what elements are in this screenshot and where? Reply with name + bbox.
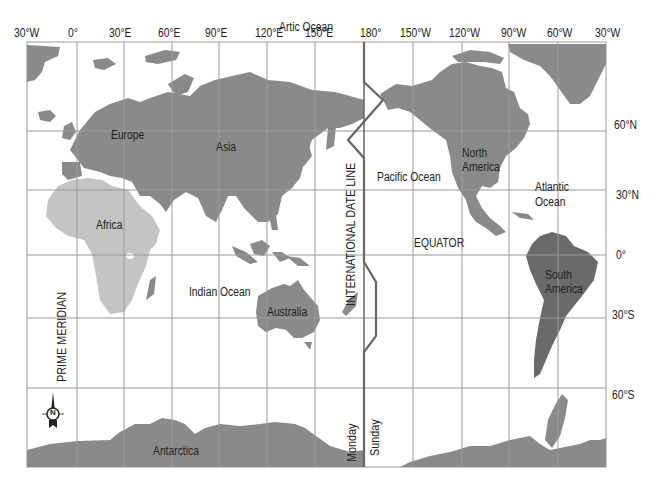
label-pacific-ocean: Pacific Ocean bbox=[377, 170, 441, 184]
lon-label: 30°W bbox=[14, 26, 39, 40]
lon-label: 120°W bbox=[449, 26, 480, 40]
lon-label: 30°E bbox=[109, 26, 131, 40]
label-equator: EQUATOR bbox=[414, 236, 464, 250]
lake-victoria bbox=[126, 253, 134, 259]
lat-label: 30°S bbox=[612, 308, 634, 322]
label-south-america-1: South bbox=[545, 268, 572, 282]
lat-label: 60°S bbox=[612, 388, 634, 402]
label-indian-ocean: Indian Ocean bbox=[189, 285, 250, 299]
lon-label: 150°W bbox=[400, 26, 431, 40]
label-south-america-2: America bbox=[545, 282, 583, 296]
label-north-america-1: North bbox=[462, 146, 487, 160]
label-prime-meridian: PRIME MERIDIAN bbox=[55, 292, 69, 382]
label-arctic-ocean: Artic Ocean bbox=[279, 20, 333, 34]
compass-north-label: N bbox=[50, 408, 56, 417]
lon-label: 30°W bbox=[595, 26, 620, 40]
label-monday: Monday bbox=[345, 424, 359, 462]
lat-label: 60°N bbox=[614, 118, 637, 132]
label-atlantic-ocean-1: Atlantic bbox=[535, 180, 569, 194]
label-international-date-line: INTERNATIONAL DATE LINE bbox=[344, 163, 358, 306]
label-sunday: Sunday bbox=[368, 419, 382, 456]
label-atlantic-ocean-2: Ocean bbox=[535, 195, 565, 209]
label-australia: Australia bbox=[267, 305, 307, 319]
label-europe: Europe bbox=[111, 128, 144, 142]
lon-label: 180° bbox=[360, 26, 381, 40]
world-map bbox=[0, 0, 660, 487]
label-africa: Africa bbox=[96, 218, 122, 232]
lat-label: 30°N bbox=[616, 188, 639, 202]
label-antarctica: Antarctica bbox=[153, 444, 199, 458]
lon-label: 90°E bbox=[205, 26, 227, 40]
lat-label: 0° bbox=[616, 248, 626, 262]
lon-label: 60°W bbox=[547, 26, 572, 40]
label-asia: Asia bbox=[216, 140, 236, 154]
label-north-america-2: America bbox=[462, 160, 500, 174]
lon-label: 0° bbox=[68, 26, 78, 40]
lon-label: 60°E bbox=[158, 26, 180, 40]
lon-label: 90°W bbox=[501, 26, 526, 40]
